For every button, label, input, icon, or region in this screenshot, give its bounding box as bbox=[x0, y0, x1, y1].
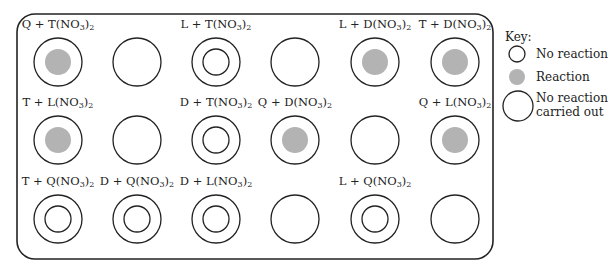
well-no-reaction-icon bbox=[351, 195, 399, 243]
well-label: D + T(NO3)2 bbox=[180, 95, 253, 109]
reaction-dot-icon bbox=[362, 49, 388, 75]
tile-outline bbox=[17, 14, 493, 259]
well-no-reaction-icon bbox=[34, 195, 82, 243]
no-reaction-ring-icon bbox=[203, 206, 229, 232]
wells-group bbox=[34, 38, 479, 243]
well-label: L + T(NO3)2 bbox=[181, 17, 252, 31]
well-not-carried-out-icon bbox=[431, 195, 479, 243]
well-not-carried-out-icon bbox=[113, 38, 161, 86]
key-heading: Key: bbox=[505, 30, 532, 45]
reaction-dot-icon bbox=[45, 127, 71, 153]
well-no-reaction-icon bbox=[113, 195, 161, 243]
well-label: T + Q(NO3)2 bbox=[22, 174, 95, 188]
well-not-carried-out-icon bbox=[351, 116, 399, 164]
well-label: L + Q(NO3)2 bbox=[339, 174, 412, 188]
well-label: T + D(NO3)2 bbox=[419, 17, 492, 31]
no-reaction-ring-icon bbox=[203, 127, 229, 153]
well-not-carried-out-icon bbox=[271, 38, 319, 86]
well-label: D + Q(NO3)2 bbox=[100, 174, 174, 188]
well-label: Q + T(NO3)2 bbox=[22, 17, 95, 31]
key-not-carried-out-icon bbox=[503, 91, 533, 121]
key-label-not-carried-out-line2: carried out bbox=[536, 105, 604, 120]
key-no-reaction-icon bbox=[509, 46, 525, 62]
no-reaction-ring-icon bbox=[362, 206, 388, 232]
key-label-not-carried-out-line1: No reaction bbox=[536, 91, 608, 106]
well-label: T + L(NO3)2 bbox=[23, 95, 94, 109]
reaction-dot-icon bbox=[282, 127, 308, 153]
well-no-reaction-icon bbox=[192, 195, 240, 243]
well-label: Q + L(NO3)2 bbox=[419, 95, 492, 109]
reaction-dot-icon bbox=[45, 49, 71, 75]
key-label-no-reaction: No reaction bbox=[536, 47, 608, 62]
key-symbols bbox=[503, 46, 533, 121]
well-label: D + L(NO3)2 bbox=[180, 174, 252, 188]
reaction-dot-icon bbox=[442, 127, 468, 153]
spotting-tile-diagram: Q + T(NO3)2L + T(NO3)2L + D(NO3)2T + D(N… bbox=[0, 0, 611, 273]
well-label: Q + D(NO3)2 bbox=[258, 95, 332, 109]
no-reaction-ring-icon bbox=[45, 206, 71, 232]
reaction-dot-icon bbox=[442, 49, 468, 75]
well-no-reaction-icon bbox=[192, 116, 240, 164]
no-reaction-ring-icon bbox=[203, 49, 229, 75]
well-not-carried-out-icon bbox=[113, 116, 161, 164]
well-label: L + D(NO3)2 bbox=[339, 17, 411, 31]
well-not-carried-out-icon bbox=[271, 195, 319, 243]
well-no-reaction-icon bbox=[192, 38, 240, 86]
key-reaction-icon bbox=[509, 69, 525, 85]
no-reaction-ring-icon bbox=[124, 206, 150, 232]
key-label-reaction: Reaction bbox=[536, 70, 590, 85]
